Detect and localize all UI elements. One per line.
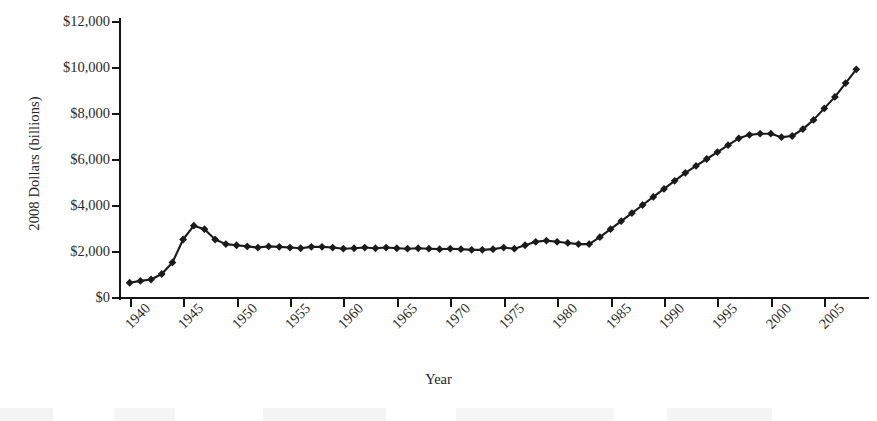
- series-markers: [126, 65, 860, 286]
- data-point-marker: [404, 245, 412, 253]
- data-point-marker: [532, 238, 540, 246]
- plot-area: [119, 21, 867, 297]
- x-tick-label: 1970: [430, 300, 475, 345]
- x-tick-label: 1985: [590, 300, 635, 345]
- scan-artifact: [0, 408, 877, 421]
- data-point-marker: [350, 244, 358, 252]
- data-point-marker: [382, 244, 390, 252]
- data-point-marker: [275, 243, 283, 251]
- y-tick-label: $8,000: [36, 105, 110, 122]
- y-tick-mark: [112, 251, 120, 253]
- y-tick-label: $10,000: [36, 59, 110, 76]
- x-tick-label: 1940: [109, 300, 154, 345]
- x-tick-label: 1975: [483, 300, 528, 345]
- y-tick-mark: [112, 159, 120, 161]
- data-point-marker: [340, 245, 348, 253]
- y-tick-mark: [112, 205, 120, 207]
- x-tick-label: 1980: [537, 300, 582, 345]
- data-point-marker: [243, 243, 251, 251]
- data-point-marker: [457, 245, 465, 253]
- data-point-marker: [510, 245, 518, 253]
- y-tick-label: $12,000: [36, 13, 110, 30]
- data-point-marker: [126, 279, 134, 287]
- data-point-marker: [318, 243, 326, 251]
- data-point-marker: [307, 243, 315, 251]
- x-tick-label: 1990: [643, 300, 688, 345]
- data-point-marker: [254, 244, 262, 252]
- data-point-marker: [286, 244, 294, 252]
- data-point-marker: [575, 240, 583, 248]
- x-tick-label: 1955: [269, 300, 314, 345]
- x-tick-label: 1945: [163, 300, 208, 345]
- data-point-marker: [543, 237, 551, 245]
- data-point-marker: [468, 246, 476, 254]
- data-point-marker: [436, 245, 444, 253]
- x-tick-label: 2005: [804, 300, 849, 345]
- data-point-marker: [553, 238, 561, 246]
- data-point-marker: [147, 276, 155, 284]
- chart-figure: 2008 Dollars (billions) $0$2,000$4,000$6…: [0, 0, 877, 421]
- data-point-marker: [222, 240, 230, 248]
- data-point-marker: [393, 244, 401, 252]
- data-point-marker: [233, 241, 241, 249]
- x-tick-label: 1960: [323, 300, 368, 345]
- data-point-marker: [489, 245, 497, 253]
- data-point-marker: [756, 130, 764, 138]
- x-tick-label: 1965: [376, 300, 421, 345]
- x-axis-title: Year: [0, 371, 877, 388]
- data-point-marker: [746, 131, 754, 139]
- data-point-marker: [521, 241, 529, 249]
- data-series-2008-dollars: [119, 21, 869, 303]
- data-point-marker: [297, 244, 305, 252]
- y-tick-label: $2,000: [36, 243, 110, 260]
- data-point-marker: [425, 245, 433, 253]
- data-point-marker: [500, 244, 508, 252]
- y-axis-tick-labels: $0$2,000$4,000$6,000$8,000$10,000$12,000: [36, 0, 110, 421]
- y-tick-mark: [112, 113, 120, 115]
- y-tick-mark: [112, 297, 120, 299]
- data-point-marker: [564, 239, 572, 247]
- data-point-marker: [265, 243, 273, 251]
- data-point-marker: [478, 246, 486, 254]
- data-point-marker: [372, 244, 380, 252]
- data-point-marker: [767, 130, 775, 138]
- x-tick-label: 1995: [697, 300, 742, 345]
- y-tick-label: $0: [36, 289, 110, 306]
- y-tick-label: $4,000: [36, 197, 110, 214]
- x-tick-label: 1950: [216, 300, 261, 345]
- y-tick-mark: [112, 67, 120, 69]
- x-tick-label: 2000: [750, 300, 795, 345]
- x-axis-tick-labels: 1940194519501955196019651970197519801985…: [119, 300, 869, 360]
- y-tick-label: $6,000: [36, 151, 110, 168]
- data-point-marker: [414, 244, 422, 252]
- data-point-marker: [446, 245, 454, 253]
- data-point-marker: [361, 244, 369, 252]
- data-point-marker: [778, 133, 786, 141]
- data-point-marker: [136, 277, 144, 285]
- y-tick-mark: [112, 21, 120, 23]
- data-point-marker: [329, 244, 337, 252]
